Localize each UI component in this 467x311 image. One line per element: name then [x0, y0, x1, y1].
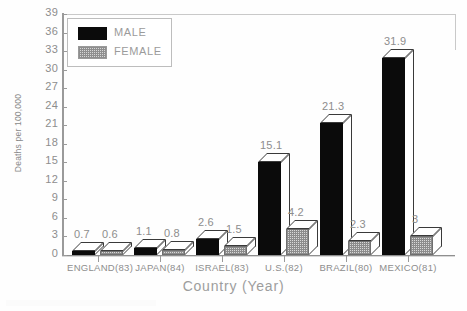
bar-value-label: 0.7 [74, 228, 90, 240]
x-axis-line-shadow [62, 256, 455, 257]
plot-frame-right [455, 14, 456, 50]
x-axis-tick-label: MEXICO(81) [377, 262, 439, 273]
bar-front-face [348, 241, 371, 255]
y-axis-tick-label: 39 [34, 6, 58, 18]
y-axis-tick-label: 18 [34, 136, 58, 148]
bar-male [320, 123, 343, 255]
y-axis-tick [62, 125, 67, 126]
bar-front-face [410, 236, 433, 255]
bar-value-label: 0.6 [102, 228, 118, 240]
bar-front-face [162, 250, 185, 255]
y-axis-line [62, 13, 64, 256]
legend-label-male: MALE [114, 26, 146, 38]
bar-male [382, 58, 405, 255]
bar-front-face [134, 248, 157, 255]
bar-front-face [100, 251, 123, 255]
x-axis-tick-label: JAPAN(84) [129, 262, 191, 273]
x-axis-title: Country (Year) [0, 278, 467, 294]
y-axis-tick [62, 144, 67, 145]
y-axis-tick-label: 30 [34, 62, 58, 74]
bar-female [286, 229, 309, 255]
x-axis-tick-label: ISRAEL(83) [191, 262, 253, 273]
bar-female [162, 250, 185, 255]
bar-value-label: 21.3 [322, 100, 344, 112]
y-axis-tick-label: 12 [34, 173, 58, 185]
bar-value-label: 1.5 [226, 223, 242, 235]
y-axis-tick-label: 21 [34, 117, 58, 129]
bar-male [72, 251, 95, 255]
bar-value-label: 0.8 [164, 227, 180, 239]
bar-male [134, 248, 157, 255]
bar-value-label: 1.1 [136, 225, 152, 237]
y-axis-tick [62, 107, 67, 108]
bar-front-face [258, 162, 281, 255]
bar-male [258, 162, 281, 255]
y-axis-tick [62, 70, 67, 71]
y-axis-tick [62, 236, 67, 237]
bar-female [410, 236, 433, 255]
y-axis-tick-label: 15 [34, 154, 58, 166]
bar-female [224, 246, 247, 255]
y-axis-tick-label: 9 [34, 191, 58, 203]
legend-label-female: FEMALE [114, 45, 162, 57]
bar-female [100, 251, 123, 255]
y-axis-tick [62, 14, 67, 15]
x-axis-tick-label: BRAZIL(80) [315, 262, 377, 273]
bar-front-face [320, 123, 343, 255]
bar-front-face [224, 246, 247, 255]
y-axis-tick [62, 162, 67, 163]
plot-frame-top [63, 14, 455, 15]
male-swatch-icon [78, 27, 107, 40]
y-axis-tick-label: 6 [34, 210, 58, 222]
x-axis-tick-label: U.S.(82) [253, 262, 315, 273]
y-axis-tick [62, 181, 67, 182]
bar-value-label: 31.9 [384, 35, 406, 47]
bar-front-face [72, 251, 95, 255]
y-axis-tick [62, 218, 67, 219]
y-axis-tick [62, 88, 67, 89]
y-axis-tick-label: 27 [34, 80, 58, 92]
y-axis-tick-label: 3 [34, 228, 58, 240]
y-axis-tick-label: 36 [34, 25, 58, 37]
bar-front-face [196, 239, 219, 255]
bar-side-face [343, 114, 352, 255]
bar-front-face [286, 229, 309, 255]
x-axis-tick-label: ENGLAND(83) [67, 262, 129, 273]
bar-value-label: 15.1 [260, 139, 282, 151]
bar-value-label: 4.2 [288, 206, 304, 218]
bar-value-label: 3 [412, 213, 418, 225]
y-axis-tick-label: 33 [34, 43, 58, 55]
y-axis-title: Deaths per 100,000 [13, 63, 23, 203]
y-axis-tick-label: 0 [34, 247, 58, 259]
bar-female [348, 241, 371, 255]
y-axis-tick [62, 199, 67, 200]
female-swatch-icon [78, 46, 107, 59]
bar-male [196, 239, 219, 255]
bar-front-face [382, 58, 405, 255]
scan-artifact [6, 300, 156, 306]
y-axis-tick-label: 24 [34, 99, 58, 111]
legend: MALE FEMALE [67, 18, 172, 67]
bar-value-label: 2.6 [198, 216, 214, 228]
chart-figure: Deaths per 100,000 393633302724211815129… [0, 0, 467, 311]
bar-value-label: 2.3 [350, 218, 366, 230]
y-axis-tick [62, 255, 67, 256]
